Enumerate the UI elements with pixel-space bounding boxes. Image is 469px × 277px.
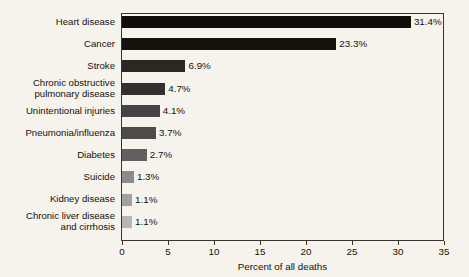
category-label: Unintentional injuries xyxy=(26,106,115,116)
x-axis-tick xyxy=(306,241,307,245)
bar-value-label: 1.1% xyxy=(135,216,157,228)
x-axis-tick-label: 15 xyxy=(255,246,266,257)
bar xyxy=(122,38,336,50)
category-label: Cancer xyxy=(84,39,115,49)
category-label: Chronic obstructive pulmonary disease xyxy=(33,78,115,99)
category-label: Diabetes xyxy=(77,150,115,160)
bar xyxy=(122,60,185,72)
x-axis-title: Percent of all deaths xyxy=(121,261,444,272)
bar-value-label: 6.9% xyxy=(188,60,210,72)
x-axis-tick-label: 0 xyxy=(119,246,124,257)
category-label: Stroke xyxy=(87,61,115,71)
category-label: Suicide xyxy=(84,172,115,182)
bar-value-label: 4.1% xyxy=(163,105,185,117)
bar xyxy=(122,127,156,139)
x-axis-tick xyxy=(444,241,445,245)
x-axis-tick xyxy=(398,241,399,245)
x-axis-tick-label: 35 xyxy=(439,246,450,257)
x-axis-tick-label: 20 xyxy=(301,246,312,257)
category-label: Pneumonia/influenza xyxy=(25,128,115,138)
bar-value-label: 4.7% xyxy=(168,83,190,95)
bar-value-label: 2.7% xyxy=(150,149,172,161)
category-labels: Heart diseaseCancerStrokeChronic obstruc… xyxy=(0,0,118,236)
bar-value-label: 23.3% xyxy=(339,38,367,50)
bar xyxy=(122,149,147,161)
bar xyxy=(122,194,132,206)
bar-value-label: 1.1% xyxy=(135,194,157,206)
bar xyxy=(122,171,134,183)
bar-value-label: 1.3% xyxy=(137,171,159,183)
bar-value-label: 31.4% xyxy=(414,16,442,28)
bar xyxy=(122,216,132,228)
category-label: Kidney disease xyxy=(50,194,115,204)
bar-chart: Heart diseaseCancerStrokeChronic obstruc… xyxy=(0,0,469,277)
x-axis-tick xyxy=(260,241,261,245)
x-axis-tick-label: 30 xyxy=(393,246,404,257)
bar xyxy=(122,105,160,117)
category-label: Chronic liver disease and cirrhosis xyxy=(26,211,115,232)
bar xyxy=(122,16,411,28)
x-axis-tick-label: 5 xyxy=(165,246,170,257)
x-axis-tick xyxy=(168,241,169,245)
category-label: Heart disease xyxy=(56,17,115,27)
x-axis-tick xyxy=(122,241,123,245)
x-axis-tick-label: 25 xyxy=(347,246,358,257)
x-axis-tick xyxy=(214,241,215,245)
bar-value-label: 3.7% xyxy=(159,127,181,139)
bar xyxy=(122,83,165,95)
x-axis-tick-label: 10 xyxy=(209,246,220,257)
x-axis-tick xyxy=(352,241,353,245)
